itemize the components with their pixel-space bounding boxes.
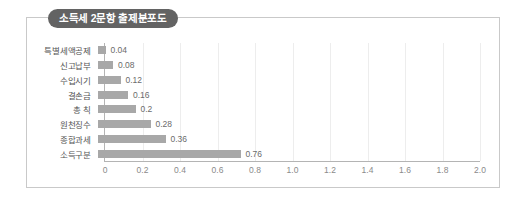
bar-value-label: 0.08 (118, 60, 135, 70)
bar[interactable] (98, 135, 166, 143)
x-tick-label: 1.4 (362, 165, 374, 175)
x-tick-label: 0.6 (212, 165, 224, 175)
bar[interactable] (98, 150, 241, 158)
bar-row: 결손금0.16 (26, 87, 480, 102)
bar-container: 0.28 (98, 117, 480, 132)
card-title-badge: 소득세 2문항 출제분포도 (48, 9, 178, 28)
bar[interactable] (98, 105, 136, 113)
category-label: 총 칙 (26, 103, 98, 115)
grid-line (480, 43, 481, 161)
bar[interactable] (98, 76, 121, 84)
bar-row: 원천징수0.28 (26, 117, 480, 132)
x-tick-label: 0.2 (137, 165, 149, 175)
bar-value-label: 0.16 (133, 90, 150, 100)
x-tick-label: 2.0 (474, 165, 486, 175)
bar-container: 0.08 (98, 58, 480, 73)
bar[interactable] (98, 46, 106, 54)
category-label: 원천징수 (26, 118, 98, 130)
category-label: 결손금 (26, 89, 98, 101)
plot-area: 특별세액공제0.04신고납부0.08수입시기0.12결손금0.16총 칙0.2원… (105, 43, 480, 161)
bar-row: 소득구분0.76 (26, 146, 480, 161)
x-tick-label: 0.8 (249, 165, 261, 175)
category-label: 소득구분 (26, 148, 98, 160)
bar[interactable] (98, 120, 151, 128)
x-tick-label: 1.8 (437, 165, 449, 175)
x-tick-label: 0.4 (174, 165, 186, 175)
bar-container: 0.16 (98, 87, 480, 102)
bar-container: 0.36 (98, 132, 480, 147)
bar[interactable] (98, 61, 113, 69)
bar-row: 수입시기0.12 (26, 73, 480, 88)
x-tick-label: 0 (103, 165, 108, 175)
bar-value-label: 0.04 (111, 45, 128, 55)
bar-container: 0.76 (98, 146, 480, 161)
bar-container: 0.04 (98, 43, 480, 58)
bar-value-label: 0.36 (171, 134, 188, 144)
category-label: 신고납부 (26, 59, 98, 71)
bar[interactable] (98, 91, 128, 99)
x-tick-label: 1.2 (324, 165, 336, 175)
x-tick-label: 1.0 (287, 165, 299, 175)
bar-container: 0.12 (98, 73, 480, 88)
category-label: 수입시기 (26, 74, 98, 86)
bar-row: 신고납부0.08 (26, 58, 480, 73)
bar-container: 0.2 (98, 102, 480, 117)
bar-row: 특별세액공제0.04 (26, 43, 480, 58)
bar-value-label: 0.12 (126, 75, 143, 85)
x-axis-line (105, 161, 480, 162)
bar-value-label: 0.76 (246, 149, 263, 159)
x-axis-tick-labels: 00.20.40.60.81.01.21.41.61.82.0 (105, 165, 480, 179)
category-label: 종합과세 (26, 133, 98, 145)
x-tick-label: 1.6 (399, 165, 411, 175)
bar-value-label: 0.28 (156, 119, 173, 129)
bar-chart: 특별세액공제0.04신고납부0.08수입시기0.12결손금0.16총 칙0.2원… (26, 38, 500, 188)
category-label: 특별세액공제 (26, 44, 98, 56)
bar-value-label: 0.2 (141, 104, 153, 114)
bar-row: 총 칙0.2 (26, 102, 480, 117)
bar-row: 종합과세0.36 (26, 132, 480, 147)
